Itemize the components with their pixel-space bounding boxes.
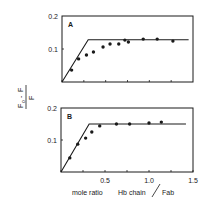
y-tick-a-0.1: 0.1	[48, 46, 58, 53]
panel-a-label: A	[68, 21, 73, 28]
panel-a-frame	[62, 16, 193, 82]
plot-area-a	[62, 37, 189, 82]
x-tick-1.0: 1.0	[144, 177, 154, 184]
data-point	[108, 42, 111, 45]
data-point	[127, 40, 130, 43]
y-tick-a-0.2: 0.2	[48, 13, 58, 20]
panel-b-frame	[61, 108, 193, 172]
ylabel-f0-den: F	[28, 96, 35, 100]
fit-line	[62, 40, 189, 82]
x-axis-label: mole ratio Hb chain Fab	[72, 184, 174, 197]
plot-area-b	[61, 120, 186, 172]
y-axis-label: F o - F F	[17, 85, 35, 109]
data-point	[101, 45, 104, 48]
x-ticks-b	[61, 140, 193, 172]
xlabel-mole-ratio: mole ratio	[72, 189, 103, 196]
data-point	[90, 130, 93, 133]
ylabel-minus: -	[17, 95, 24, 98]
x-tick-0.5: 0.5	[100, 177, 110, 184]
y-tick-b-0.2: 0.2	[47, 105, 57, 112]
panel-b: B 0.2 0.1 0.5 1.0 1.5	[47, 105, 198, 184]
data-point	[160, 120, 163, 123]
data-point	[85, 53, 88, 56]
fit-line	[61, 124, 186, 172]
data-point	[117, 42, 120, 45]
figure: A 0.2 0.1 B 0.2 0.1 0.5 1.0 1.5 mole rat…	[0, 0, 208, 206]
ylabel-f0-num: F	[17, 104, 24, 108]
data-point	[84, 136, 87, 139]
xlabel-hb-chain: Hb chain	[118, 189, 146, 196]
xlabel-slash	[152, 184, 160, 197]
y-tick-b-0.1: 0.1	[47, 137, 57, 144]
panel-a: A 0.2 0.1	[48, 13, 193, 82]
data-point	[92, 50, 95, 53]
data-point	[98, 124, 101, 127]
ylabel-sub: o	[20, 100, 26, 103]
x-tick-1.5: 1.5	[188, 177, 198, 184]
panel-b-label: B	[67, 113, 72, 120]
x-ticks-a	[62, 49, 171, 82]
ylabel-f-num: F	[17, 88, 24, 92]
xlabel-fab: Fab	[162, 189, 174, 196]
